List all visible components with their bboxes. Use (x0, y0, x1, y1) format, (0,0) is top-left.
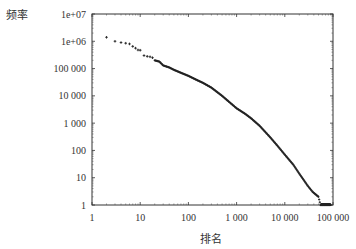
x-tick-label: 1 (90, 212, 95, 223)
x-tick-label: 10 000 (271, 212, 299, 223)
chart-svg: 1101001 00010 000100 0001101001 00010 00… (0, 0, 356, 249)
plot-axes (92, 14, 333, 205)
data-points (105, 36, 332, 206)
y-tick-label: 1e+07 (61, 9, 86, 20)
y-axis-label: 频率 (6, 6, 28, 22)
y-tick-label: 1e+06 (61, 36, 86, 47)
axis-ticks: 1101001 00010 000100 0001101001 00010 00… (54, 9, 350, 224)
x-axis-label: 排名 (200, 230, 222, 246)
x-tick-label: 10 (135, 212, 145, 223)
y-tick-label: 1 (81, 200, 86, 211)
plot-frame (92, 14, 333, 205)
y-tick-label: 1 000 (64, 118, 87, 129)
x-tick-label: 100 000 (317, 212, 350, 223)
x-tick-label: 100 (181, 212, 196, 223)
y-tick-label: 100 000 (54, 63, 87, 74)
x-tick-label: 1 000 (225, 212, 248, 223)
y-tick-label: 10 (76, 172, 86, 183)
y-tick-label: 100 (71, 145, 86, 156)
y-tick-label: 10 000 (59, 90, 87, 101)
